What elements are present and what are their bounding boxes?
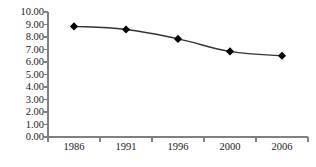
axes (48, 12, 308, 137)
plot-area (0, 0, 316, 167)
data-point-marker (70, 22, 78, 30)
data-point-marker (122, 25, 130, 33)
data-point-marker (278, 52, 286, 60)
data-series (70, 22, 286, 60)
data-point-marker (226, 47, 234, 55)
data-point-marker (174, 35, 182, 43)
line-chart: 0.001.002.003.004.005.006.007.008.009.00… (0, 0, 316, 167)
